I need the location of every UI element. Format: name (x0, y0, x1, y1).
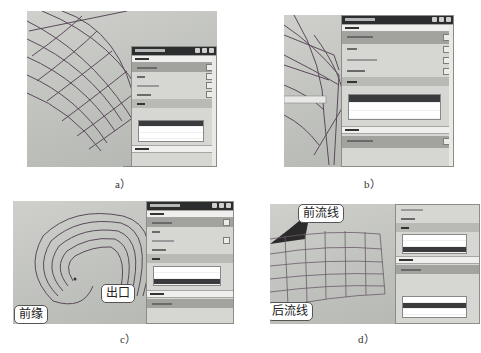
reset-icon[interactable] (195, 48, 200, 53)
section-header[interactable] (396, 256, 479, 264)
section-header[interactable] (342, 126, 453, 134)
select-curve-row[interactable] (147, 218, 233, 227)
callout-leading-edge: 前缘 (14, 305, 48, 324)
close-icon[interactable] (446, 17, 451, 22)
select-curve-row[interactable] (396, 265, 479, 274)
list-item[interactable] (349, 103, 440, 111)
dialog-d (395, 204, 480, 324)
dialog-title-bar (147, 202, 233, 210)
list-header (342, 77, 453, 86)
subfigure-a-viewport (27, 11, 217, 167)
curve-list-2[interactable] (402, 296, 467, 318)
list-item[interactable] (139, 133, 203, 139)
section-header[interactable] (132, 55, 216, 63)
section-header[interactable] (132, 145, 216, 153)
option-row (396, 205, 479, 214)
dialog-c (146, 201, 234, 324)
origin-point (74, 278, 77, 281)
options-icon[interactable] (223, 237, 230, 244)
curve-select-icon[interactable] (223, 219, 230, 226)
select-curve-row[interactable] (132, 63, 216, 72)
subfigure-b-viewport (284, 15, 454, 167)
curve-list[interactable] (153, 266, 221, 286)
list-item[interactable] (154, 279, 220, 285)
list-item[interactable] (349, 95, 440, 103)
dialog-title-bar (342, 16, 453, 24)
list-header (147, 254, 233, 263)
close-icon[interactable] (209, 48, 214, 53)
option-row (342, 44, 453, 55)
subfigure-d-viewport: 前流线 后流线 (270, 204, 480, 324)
option-row (342, 55, 453, 66)
curve-list[interactable] (402, 234, 467, 254)
reset-icon[interactable] (212, 203, 217, 208)
select-curve-row[interactable] (342, 136, 453, 148)
option-row (132, 81, 216, 90)
subfigure-label-d: d） (358, 330, 375, 346)
option-row (147, 245, 233, 254)
dialog-scrollbar[interactable] (212, 56, 216, 166)
option-row (147, 236, 233, 245)
subfigure-c-viewport: 前缘 出口 (13, 201, 234, 324)
option-row (342, 66, 453, 77)
dialog-title-bar (132, 47, 216, 55)
list-item[interactable] (349, 111, 440, 119)
settings-icon[interactable] (439, 17, 444, 22)
callout-rear-streamline: 后流线 (270, 302, 313, 321)
list-header (396, 223, 479, 232)
tooltip (284, 96, 326, 103)
select-curve-row[interactable] (342, 32, 453, 44)
subfigure-label-a: a） (115, 175, 131, 191)
section-header[interactable] (147, 290, 233, 298)
select-curve-row[interactable] (147, 299, 233, 308)
option-row (147, 227, 233, 236)
option-row (132, 90, 216, 99)
settings-icon[interactable] (219, 203, 224, 208)
close-icon[interactable] (226, 203, 231, 208)
reset-icon[interactable] (432, 17, 437, 22)
list-header (132, 99, 216, 108)
callout-outlet: 出口 (101, 284, 135, 303)
list-item[interactable] (403, 247, 466, 253)
settings-icon[interactable] (202, 48, 207, 53)
subfigure-label-b: b） (364, 175, 381, 191)
callout-front-streamline: 前流线 (298, 204, 344, 223)
dialog-scrollbar[interactable] (449, 25, 453, 166)
section-header[interactable] (147, 210, 233, 218)
dialog-b (341, 15, 454, 167)
list-item[interactable] (403, 309, 466, 315)
option-row (396, 214, 479, 223)
dialog-a (131, 46, 217, 167)
option-row (132, 72, 216, 81)
section-header[interactable] (342, 24, 453, 32)
curve-list[interactable] (348, 94, 441, 120)
subfigure-label-c: c） (120, 330, 136, 346)
curve-list[interactable] (138, 120, 204, 142)
